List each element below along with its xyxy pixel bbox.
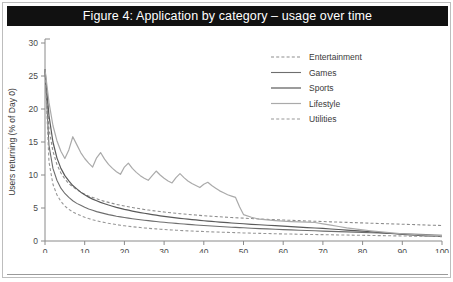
figure-frame: Figure 4: Application by category – usag… [2, 2, 451, 278]
series-line-utilities [45, 69, 442, 236]
chart-legend: EntertainmentGamesSportsLifestyleUtiliti… [271, 52, 363, 124]
series-line-sports [45, 69, 442, 236]
series-line-entertainment [45, 69, 442, 225]
legend-label-lifestyle: Lifestyle [309, 99, 340, 109]
x-tick-label: 30 [159, 247, 169, 253]
y-axis-title: Users returning (% of Day 0) [7, 88, 17, 196]
y-tick-label: 15 [29, 137, 39, 147]
series-line-lifestyle [45, 69, 442, 235]
x-tick-label: 40 [199, 247, 209, 253]
chart-axes: 0510152025300102030405060708090100 [29, 38, 450, 253]
legend-label-utilities: Utilities [309, 114, 336, 124]
x-tick-label: 50 [239, 247, 249, 253]
x-tick-label: 60 [278, 247, 288, 253]
figure-title-bar: Figure 4: Application by category – usag… [7, 6, 448, 26]
y-tick-label: 25 [29, 71, 39, 81]
x-tick-label: 80 [358, 247, 368, 253]
y-tick-label: 10 [29, 170, 39, 180]
figure-title: Figure 4: Application by category – usag… [83, 9, 372, 23]
footer-caption-clip [7, 275, 448, 282]
y-tick-label: 30 [29, 38, 39, 48]
x-tick-label: 90 [398, 247, 408, 253]
x-tick-label: 100 [435, 247, 449, 253]
line-chart: 0510152025300102030405060708090100 Enter… [3, 29, 452, 253]
series-line-games [45, 69, 442, 235]
x-tick-label: 20 [120, 247, 130, 253]
x-tick-label: 0 [43, 247, 48, 253]
legend-label-games: Games [309, 68, 336, 78]
legend-label-entertainment: Entertainment [309, 52, 363, 62]
x-tick-label: 70 [318, 247, 328, 253]
y-tick-label: 20 [29, 104, 39, 114]
chart-plot-area: 0510152025300102030405060708090100 Enter… [3, 29, 452, 253]
x-tick-label: 10 [80, 247, 90, 253]
y-tick-label: 0 [33, 236, 38, 246]
chart-series [45, 69, 442, 236]
y-tick-label: 5 [33, 203, 38, 213]
legend-label-sports: Sports [309, 83, 334, 93]
